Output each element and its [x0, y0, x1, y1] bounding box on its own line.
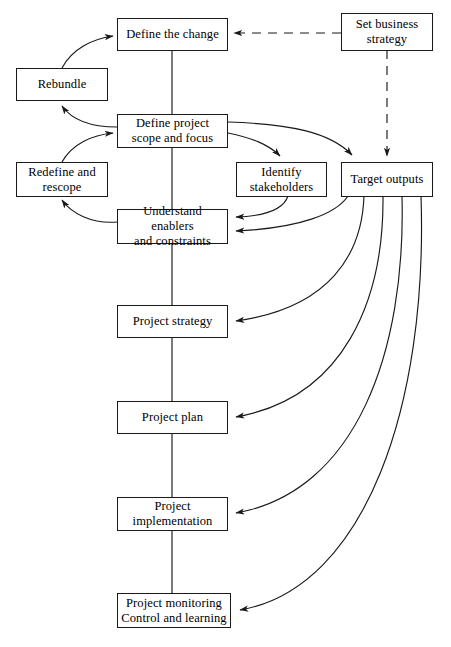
- node-set-business-strategy[interactable]: Set business strategy: [341, 13, 433, 51]
- node-label: Project strategy: [130, 314, 216, 329]
- edge-rescope-to-scope: [62, 133, 113, 162]
- flowchart-diagram: Define the change Set business strategy …: [0, 0, 451, 647]
- node-label: Identify stakeholders: [247, 165, 317, 195]
- node-label: Define project scope and focus: [129, 116, 216, 146]
- node-identify-stakeholders[interactable]: Identify stakeholders: [236, 162, 327, 197]
- node-label: Redefine and rescope: [25, 165, 99, 195]
- node-label: Project monitoring Control and learning: [118, 596, 229, 626]
- edge-scope-to-stakeholders: [228, 133, 280, 156]
- node-label: Understand enablers and constraints: [118, 204, 227, 249]
- edge-target-outputs-to-monitoring: [240, 196, 422, 610]
- node-label: Target outputs: [348, 172, 427, 187]
- edge-target-outputs-to-implementation: [236, 196, 402, 513]
- node-project-implementation[interactable]: Project implementation: [117, 497, 228, 531]
- node-define-the-change[interactable]: Define the change: [117, 18, 228, 51]
- node-label: Define the change: [123, 27, 222, 42]
- node-project-plan[interactable]: Project plan: [117, 401, 228, 434]
- edge-scope-to-target-outputs: [228, 122, 352, 155]
- node-label: Rebundle: [35, 77, 90, 92]
- node-redefine-and-rescope[interactable]: Redefine and rescope: [16, 162, 108, 197]
- node-label: Project implementation: [130, 499, 216, 529]
- node-understand-enablers[interactable]: Understand enablers and constraints: [117, 209, 228, 244]
- node-target-outputs[interactable]: Target outputs: [341, 162, 433, 197]
- edge-stakeholders-to-enablers: [236, 196, 288, 217]
- edge-enablers-to-rescope: [62, 200, 117, 222]
- node-label: Project plan: [139, 410, 206, 425]
- node-project-strategy[interactable]: Project strategy: [117, 305, 228, 338]
- node-project-monitoring[interactable]: Project monitoring Control and learning: [117, 593, 231, 628]
- edge-rebundle-to-change: [62, 36, 113, 68]
- node-define-project-scope[interactable]: Define project scope and focus: [117, 114, 228, 148]
- node-rebundle[interactable]: Rebundle: [16, 68, 108, 101]
- edge-target-outputs-to-strategy: [236, 196, 364, 321]
- edge-target-outputs-to-enablers: [236, 196, 348, 231]
- edge-scope-to-rebundle: [62, 106, 117, 127]
- node-label: Set business strategy: [353, 17, 422, 47]
